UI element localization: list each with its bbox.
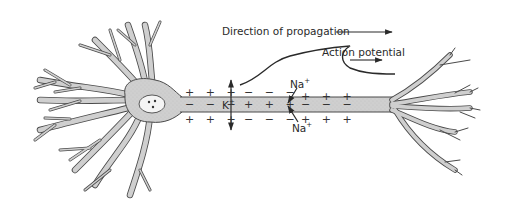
- charge-outside-top-left: + + +: [185, 87, 240, 98]
- charge-outside-bottom-left: + + +: [185, 114, 240, 125]
- charge-inside-left: − − −: [185, 99, 240, 110]
- charge-inside-mid: + + +: [244, 99, 299, 110]
- charge-inside-right: − − −: [301, 99, 356, 110]
- action-potential-label: Action potential: [322, 47, 405, 58]
- axon-terminals: [392, 48, 480, 175]
- direction-label: Direction of propagation: [222, 26, 350, 37]
- charge-outside-bottom-mid: − − −: [244, 114, 299, 125]
- charge-outside-bottom-right: + + +: [301, 114, 356, 125]
- charge-outside-top-mid: − − −: [244, 87, 299, 98]
- nucleus: [139, 95, 165, 113]
